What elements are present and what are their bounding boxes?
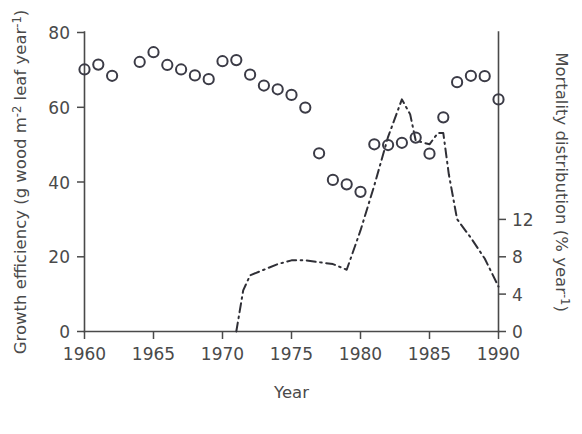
right-tick-label-0: 0 (512, 322, 523, 342)
left-axis-title-sup1: -2 (10, 106, 24, 117)
scatter-point (162, 60, 172, 70)
scatter-point (466, 71, 476, 81)
scatter-point (204, 74, 214, 84)
scatter-point (217, 56, 227, 66)
scatter-point (245, 70, 255, 80)
scatter-point (328, 175, 338, 185)
scatter-point (231, 55, 241, 65)
scatter-point (452, 77, 462, 87)
x-tick-label-1980: 1980 (339, 344, 382, 364)
left-tick-label-0: 0 (59, 322, 70, 342)
scatter-point (286, 90, 296, 100)
scatter-point (355, 187, 365, 197)
scatter-point (259, 80, 269, 90)
left-axis-ticks (77, 33, 85, 332)
scatter-point (300, 103, 310, 113)
scatter-point (135, 57, 145, 67)
growth-efficiency-mortality-chart: 80 60 40 20 0 0 4 8 12 1960 1965 1970 19… (0, 0, 582, 434)
scatter-point (107, 71, 117, 81)
figure-container: 80 60 40 20 0 0 4 8 12 1960 1965 1970 19… (0, 0, 582, 434)
left-tick-label-60: 60 (48, 98, 70, 118)
left-tick-label-20: 20 (48, 247, 70, 267)
left-axis-title-tail: ) (11, 10, 30, 16)
left-axis-title: Growth efficiency (g wood m-2 leaf year-… (10, 10, 30, 354)
left-tick-label-80: 80 (48, 23, 70, 43)
scatter-point (480, 71, 490, 81)
scatter-point (314, 148, 324, 158)
scatter-point (424, 149, 434, 159)
left-axis-title-main: Growth efficiency (g wood m (11, 117, 30, 354)
scatter-point (397, 138, 407, 148)
scatter-point (383, 140, 393, 150)
right-axis-title: Mortality distribution (% year-1) (552, 52, 572, 312)
scatter-point (369, 139, 379, 149)
x-tick-label-1990: 1990 (477, 344, 520, 364)
right-tick-label-12: 12 (512, 210, 534, 230)
right-axis-title-tail: ) (552, 305, 571, 311)
scatter-point (342, 179, 352, 189)
left-axis-title-sup2: -1 (10, 16, 24, 27)
right-tick-label-8: 8 (512, 247, 523, 267)
left-tick-label-40: 40 (48, 173, 70, 193)
scatter-point (93, 59, 103, 69)
left-axis-title-mid: leaf year (11, 27, 30, 105)
x-tick-label-1985: 1985 (408, 344, 451, 364)
mortality-distribution-line (236, 99, 498, 331)
x-axis-title: Year (273, 383, 309, 402)
right-axis-title-main: Mortality distribution (% year (552, 52, 571, 294)
right-tick-label-4: 4 (512, 285, 523, 305)
x-tick-label-1965: 1965 (132, 344, 175, 364)
x-axis-ticks (85, 332, 499, 340)
scatter-point (148, 47, 158, 57)
scatter-point (190, 70, 200, 80)
scatter-point (176, 64, 186, 74)
x-tick-label-1960: 1960 (63, 344, 106, 364)
right-axis-ticks (499, 219, 507, 331)
x-tick-label-1970: 1970 (201, 344, 244, 364)
growth-efficiency-scatter-group (79, 47, 503, 197)
scatter-point (438, 112, 448, 122)
x-tick-label-1975: 1975 (270, 344, 313, 364)
right-axis-title-sup1: -1 (558, 294, 572, 305)
scatter-point (273, 84, 283, 94)
